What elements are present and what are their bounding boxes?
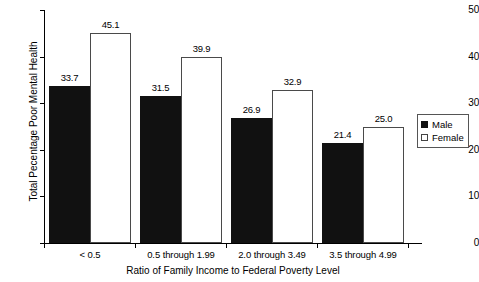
x-tick-mark	[226, 244, 227, 248]
y-tick-label: 0	[441, 238, 479, 248]
legend-swatch-female-icon	[421, 134, 428, 141]
legend-swatch-male-icon	[421, 121, 428, 128]
y-axis-title: Total Pecentage Poor Mental Health	[28, 27, 39, 217]
x-tick-mark	[317, 244, 318, 248]
y-tick-label: 40	[441, 52, 479, 62]
bar-female-3	[363, 127, 404, 244]
y-tick-label: 50	[441, 5, 479, 15]
plot-area: 33.745.131.539.926.932.921.425.0	[44, 10, 422, 243]
bar-male-1	[140, 96, 181, 243]
chart-legend: Male Female	[417, 114, 469, 148]
x-axis-title: Ratio of Family Income to Federal Povert…	[44, 265, 422, 276]
bar-value-label: 26.9	[227, 105, 276, 115]
bar-male-2	[231, 118, 272, 243]
bar-value-label: 45.1	[86, 20, 135, 30]
legend-label-female: Female	[432, 133, 464, 143]
bar-value-label: 21.4	[318, 130, 367, 140]
x-axis-line	[44, 243, 422, 244]
x-tick-mark	[408, 244, 409, 248]
bar-value-label: 39.9	[177, 44, 226, 54]
bar-value-label: 31.5	[136, 83, 185, 93]
x-category-label: 3.5 through 4.99	[303, 249, 423, 260]
y-tick-label: 10	[441, 191, 479, 201]
x-tick-mark	[135, 244, 136, 248]
bar-chart: Total Pecentage Poor Mental Health 01020…	[0, 0, 479, 282]
x-tick-mark	[44, 244, 45, 248]
bar-male-0	[49, 86, 90, 243]
bar-female-0	[90, 33, 131, 243]
bar-male-3	[322, 143, 363, 243]
bar-value-label: 33.7	[45, 73, 94, 83]
legend-label-male: Male	[432, 120, 453, 130]
bar-value-label: 25.0	[359, 114, 408, 124]
bar-female-1	[181, 57, 222, 243]
legend-item-male: Male	[421, 118, 464, 131]
bar-female-2	[272, 90, 313, 243]
y-tick-label: 30	[441, 98, 479, 108]
legend-item-female: Female	[421, 131, 464, 144]
bar-value-label: 32.9	[268, 77, 317, 87]
